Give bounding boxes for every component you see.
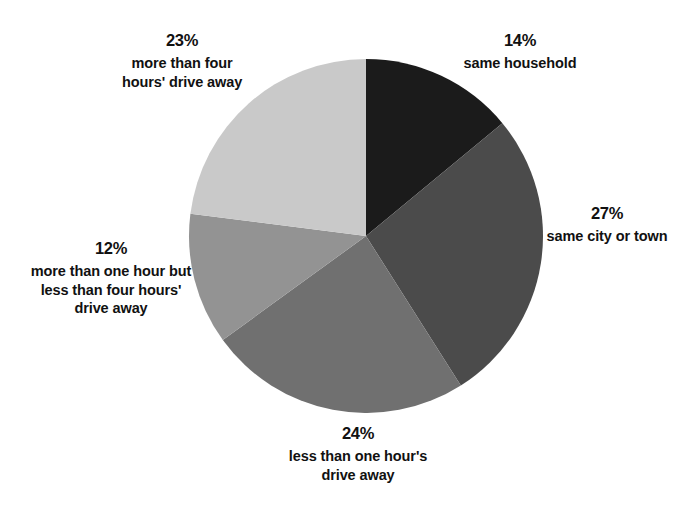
pie-chart-graphic — [188, 59, 544, 413]
pie-chart: 14% same household 27% same city or town… — [0, 0, 692, 517]
pie-label-less-than-one-hour-percent: 24% — [242, 423, 474, 444]
pie-label-less-than-one-hour-text: less than one hour's drive away — [242, 447, 474, 484]
pie-label-same-household: 14% same household — [420, 30, 620, 73]
pie-label-same-household-text: same household — [420, 54, 620, 73]
pie-label-same-city-or-town-text: same city or town — [524, 227, 690, 246]
pie-label-same-city-or-town: 27% same city or town — [524, 203, 690, 246]
pie-label-more-than-four-hours: 23% more than four hours' drive away — [82, 30, 282, 91]
pie-label-one-to-four-hours-percent: 12% — [2, 238, 220, 259]
pie-label-more-than-four-hours-percent: 23% — [82, 30, 282, 51]
pie-label-same-city-or-town-percent: 27% — [524, 203, 690, 224]
pie-label-less-than-one-hour: 24% less than one hour's drive away — [242, 423, 474, 484]
pie-label-same-household-percent: 14% — [420, 30, 620, 51]
pie-label-more-than-four-hours-text: more than four hours' drive away — [82, 54, 282, 91]
pie-label-one-to-four-hours-text: more than one hour but less than four ho… — [2, 262, 220, 318]
pie-label-one-to-four-hours: 12% more than one hour but less than fou… — [2, 238, 220, 318]
